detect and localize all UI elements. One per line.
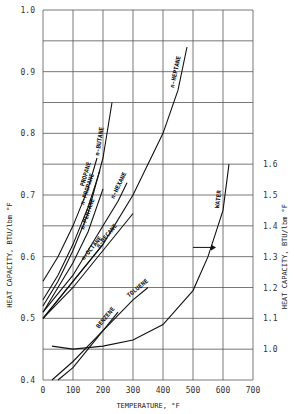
arrow-head-icon xyxy=(211,244,216,250)
y-axis-label: HEAT CAPACITY, BTU/lbm °F xyxy=(6,202,14,307)
y-tick-label: 1.0 xyxy=(21,6,36,15)
x-tick-label: 700 xyxy=(246,386,261,395)
y2-axis-label: HEAT CAPACITY, BTU/lbm °F xyxy=(281,204,289,309)
x-tick-label: 500 xyxy=(186,386,201,395)
y-tick-label: 0.9 xyxy=(21,68,36,77)
y-tick-label: 0.4 xyxy=(21,376,36,385)
curve-n-propane xyxy=(43,170,100,300)
y2-tick-label: 1.4 xyxy=(263,222,278,231)
y-tick-label: 0.5 xyxy=(21,314,36,323)
y2-tick-label: 1.3 xyxy=(263,253,278,262)
x-tick-label: 200 xyxy=(96,386,111,395)
y2-tick-label: 1.6 xyxy=(263,160,278,169)
x-tick-label: 300 xyxy=(126,386,141,395)
x-tick-label: 0 xyxy=(41,386,46,395)
y2-tick-label: 1.5 xyxy=(263,191,278,200)
heat-capacity-chart: 01002003004005006007000.40.50.60.70.80.9… xyxy=(0,0,294,414)
curve-toluene xyxy=(52,288,148,381)
y2-tick-label: 1.2 xyxy=(263,284,278,293)
x-axis-label: TEMPERATURE, °F xyxy=(116,402,179,410)
curve-label: BENZENE xyxy=(94,305,116,329)
curve-label: WATER xyxy=(213,189,222,208)
y-tick-label: 0.7 xyxy=(21,191,36,200)
curve-n-decane xyxy=(43,214,133,319)
x-tick-label: 400 xyxy=(156,386,171,395)
x-tick-label: 100 xyxy=(66,386,81,395)
y2-tick-label: 1.0 xyxy=(263,345,278,354)
y-tick-label: 0.8 xyxy=(21,129,36,138)
x-tick-label: 600 xyxy=(216,386,231,395)
y2-tick-label: 1.1 xyxy=(263,314,278,323)
y-tick-label: 0.6 xyxy=(21,253,36,262)
